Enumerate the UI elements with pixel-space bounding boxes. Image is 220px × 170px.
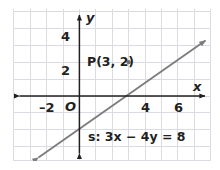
graph-canvas (0, 0, 220, 170)
x-tick-label-neg2: –2 (39, 101, 55, 114)
y-axis-label: y (86, 11, 94, 24)
y-tick-label-4: 4 (61, 30, 70, 43)
x-axis-label: x (193, 80, 201, 93)
point-P-label: P(3, 2) (87, 56, 134, 69)
origin-label: O (65, 100, 76, 113)
coordinate-plane-figure: 4 2 –2 4 6 O x y P(3, 2) s: 3x − 4y = 8 (0, 0, 220, 170)
x-tick-label-4: 4 (141, 101, 150, 114)
y-tick-label-2: 2 (61, 64, 70, 77)
x-tick-label-6: 6 (174, 101, 183, 114)
line-equation-label: s: 3x − 4y = 8 (88, 131, 185, 144)
